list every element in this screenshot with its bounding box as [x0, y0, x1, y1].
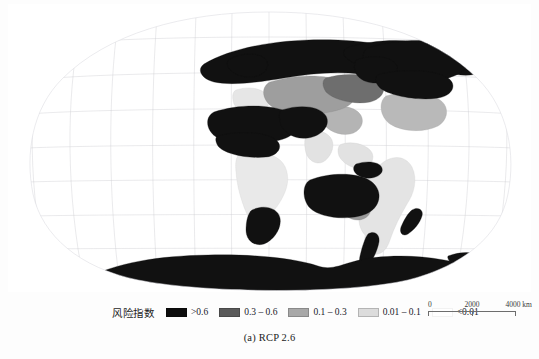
figure-panel: 风险指数 >0.6 0.3 – 0.6 0.1 – 0.3 0.01 – 0.1… — [0, 0, 539, 359]
region-canada-south — [376, 71, 453, 99]
legend-swatch-low — [358, 308, 379, 317]
legend-swatch-high — [219, 308, 240, 317]
region-antarctica — [78, 255, 496, 291]
world-risk-map[interactable] — [8, 4, 531, 292]
region-south-africa — [246, 207, 280, 245]
scalebar-labels: 0 2000 4000 km — [428, 300, 526, 310]
figure-caption: (a) RCP 2.6 — [0, 332, 539, 343]
scalebar-tick-1: 2000 — [465, 300, 480, 309]
legend-label-high: 0.3 – 0.6 — [244, 307, 277, 317]
scalebar-tick-mark-1 — [472, 311, 473, 316]
scalebar-ruler — [428, 311, 516, 317]
legend-item-1[interactable]: 0.3 – 0.6 — [219, 307, 277, 317]
landmass-layer — [78, 35, 496, 291]
legend-swatch-medium — [288, 308, 309, 317]
legend-label-very-high: >0.6 — [191, 307, 208, 317]
region-australia — [304, 174, 379, 218]
scalebar-tick-mark-2 — [515, 311, 516, 316]
legend-label-medium: 0.1 – 0.3 — [313, 307, 346, 317]
scalebar-tick-0: 0 — [428, 300, 432, 309]
legend-title: 风险指数 — [112, 305, 154, 320]
legend-item-3[interactable]: 0.01 – 0.1 — [358, 307, 421, 317]
legend-swatch-very-high — [166, 308, 187, 317]
region-antarctic-peninsula — [448, 253, 488, 271]
legend-item-0[interactable]: >0.6 — [166, 307, 208, 317]
map-scalebar: 0 2000 4000 km — [428, 300, 526, 322]
scalebar-tick-mark-0 — [428, 311, 429, 316]
map-canvas — [8, 4, 531, 292]
region-new-zealand — [400, 208, 422, 235]
legend-label-low: 0.01 – 0.1 — [383, 307, 421, 317]
scalebar-tick-2: 4000 km — [505, 300, 531, 309]
legend-item-2[interactable]: 0.1 – 0.3 — [288, 307, 346, 317]
